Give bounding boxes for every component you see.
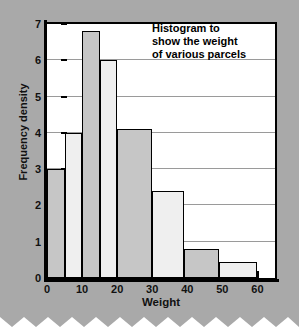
histogram-bar — [184, 249, 219, 278]
chart-title: Histogram to show the weight of various … — [152, 22, 246, 61]
histogram-bar — [117, 129, 152, 278]
histogram-bar — [65, 133, 83, 278]
y-axis-title: Frequency density — [17, 57, 29, 207]
x-tick-label: 0 — [35, 283, 59, 295]
chart-title-line-3: of various parcels — [152, 48, 246, 61]
x-tick-label: 60 — [245, 283, 269, 295]
histogram-bar — [219, 262, 258, 278]
x-tick-label: 40 — [175, 283, 199, 295]
histogram-bar — [152, 191, 184, 278]
x-tick-label: 20 — [105, 283, 129, 295]
x-axis-title: Weight — [45, 296, 277, 308]
x-tick-label: 10 — [70, 283, 94, 295]
page-background: Histogram to show the weight of various … — [0, 0, 299, 329]
histogram-bar — [100, 60, 118, 278]
x-tick-label: 30 — [140, 283, 164, 295]
histogram-bar — [82, 31, 100, 278]
chart-title-line-2: show the weight — [152, 35, 246, 48]
x-tick-label: 50 — [210, 283, 234, 295]
x-tick-mark — [257, 271, 259, 280]
histogram-bar — [47, 169, 65, 278]
chart-title-line-1: Histogram to — [152, 22, 246, 35]
